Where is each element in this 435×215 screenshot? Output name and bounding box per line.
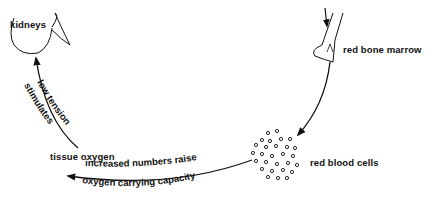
- edge-label-oxygen-capacity: oxygen carrying capacity: [82, 169, 197, 188]
- node-label-kidneys: kidneys: [10, 19, 46, 30]
- arrow-marrow-to-rbc: [298, 62, 330, 135]
- red-blood-cells-icon: [251, 129, 298, 179]
- erythropoiesis-cycle-diagram: low tension stimulates increased numbers…: [0, 0, 435, 215]
- bone-icon: [314, 8, 343, 62]
- node-label-red-bone-marrow: red bone marrow: [343, 44, 422, 55]
- node-label-tissue-oxygen: tissue oxygen: [50, 151, 115, 162]
- diagram-graphics: low tension stimulates increased numbers…: [0, 0, 435, 215]
- node-label-red-blood-cells: red blood cells: [310, 157, 379, 168]
